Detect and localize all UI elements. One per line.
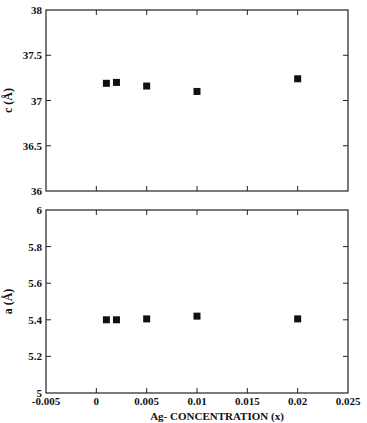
bottom-y-tick-label: 5.6 <box>28 277 42 289</box>
bottom-plot-frame <box>46 210 348 393</box>
bottom-x-tick-label: 0.01 <box>187 395 206 407</box>
top-data-point <box>143 83 150 90</box>
chart-figure: 3636.53737.538c (Å)55.25.45.65.86-0.0050… <box>0 0 367 423</box>
bottom-x-tick-label: 0.005 <box>134 395 159 407</box>
bottom-y-tick-label: 6 <box>37 204 43 216</box>
bottom-y-tick-label: 5.2 <box>28 350 42 362</box>
bottom-y-tick-label: 5.8 <box>28 241 42 253</box>
top-y-tick-label: 36 <box>31 185 43 197</box>
bottom-x-tick-label: 0.015 <box>235 395 260 407</box>
top-y-tick-label: 38 <box>31 4 43 16</box>
bottom-x-tick-label: 0.02 <box>288 395 308 407</box>
bottom-data-point <box>113 316 120 323</box>
bottom-x-axis-label: Ag- CONCENTRATION (x) <box>150 410 284 423</box>
top-data-point <box>194 88 201 95</box>
bottom-data-point <box>143 315 150 322</box>
top-y-tick-label: 37 <box>31 95 43 107</box>
top-data-point <box>103 80 110 87</box>
bottom-data-point <box>103 316 110 323</box>
bottom-x-tick-label: -0.005 <box>32 395 61 407</box>
bottom-x-tick-label: 0 <box>94 395 100 407</box>
bottom-y-axis-label: a (Å) <box>1 289 15 315</box>
top-plot-frame <box>46 10 348 191</box>
top-y-tick-label: 37.5 <box>23 49 43 61</box>
bottom-y-tick-label: 5.4 <box>28 314 42 326</box>
chart-svg: 3636.53737.538c (Å)55.25.45.65.86-0.0050… <box>0 0 367 423</box>
top-data-point <box>113 79 120 86</box>
top-data-point <box>294 75 301 82</box>
bottom-data-point <box>194 313 201 320</box>
top-y-axis-label: c (Å) <box>1 88 15 113</box>
top-y-tick-label: 36.5 <box>23 140 43 152</box>
bottom-data-point <box>294 315 301 322</box>
bottom-x-tick-label: 0.025 <box>336 395 361 407</box>
